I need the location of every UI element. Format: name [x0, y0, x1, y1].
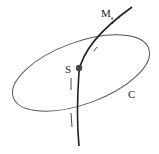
flow-arrow-2: [94, 47, 97, 51]
manifold-label: Ms: [101, 7, 114, 22]
saddle-point-s: [76, 65, 82, 71]
point-label: S: [65, 63, 71, 75]
closed-curve-c: [3, 19, 159, 127]
stable-manifold-curve: [78, 7, 133, 146]
curve-label: C: [128, 88, 135, 100]
diagram-canvas: Ms S C: [0, 0, 159, 154]
flow-arrow-4: [71, 113, 72, 127]
